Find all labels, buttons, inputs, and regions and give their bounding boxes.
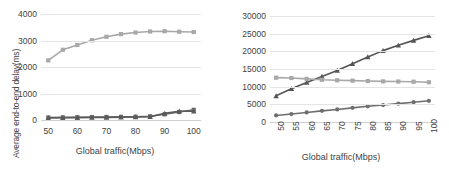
x-tick-label: 100 — [187, 126, 201, 136]
data-point-marker — [412, 80, 416, 84]
data-point-marker — [305, 77, 309, 81]
x-tick-label: 95 — [414, 121, 424, 130]
x-axis-title-left: Global traffic(Mbps) — [20, 146, 210, 156]
x-tick-label: 90 — [160, 126, 169, 136]
data-point-marker — [396, 79, 400, 83]
y-tick-label: 20000 — [242, 46, 266, 56]
two-panel-chart-figure: Average end-to-end delay(ms) 01000200030… — [0, 0, 449, 172]
y-tick-label: 1000 — [18, 89, 37, 99]
plot-area-left — [41, 14, 201, 120]
series-square — [46, 29, 196, 62]
gridline — [41, 14, 201, 15]
data-point-marker — [177, 30, 181, 34]
data-point-marker — [104, 35, 108, 39]
data-point-marker — [350, 106, 354, 110]
chart-panel-delay: Average end-to-end delay(ms) 01000200030… — [0, 0, 222, 172]
y-tick-label: 15000 — [242, 64, 266, 74]
x-tick-label: 50 — [276, 121, 286, 130]
data-point-marker — [61, 48, 65, 52]
data-point-marker — [289, 112, 293, 116]
y-tick-label: 0 — [32, 115, 37, 125]
data-point-marker — [335, 78, 339, 82]
x-tick-label: 80 — [131, 126, 140, 136]
x-tick-label: 75 — [353, 121, 363, 130]
y-tick-label: 2000 — [18, 62, 37, 72]
x-tick-label: 50 — [44, 126, 53, 136]
data-point-marker — [427, 99, 431, 103]
data-point-marker — [305, 110, 309, 114]
series-square — [274, 76, 431, 85]
y-tick-label: 4000 — [18, 9, 37, 19]
y-tick-label: 5000 — [247, 99, 266, 109]
data-point-marker — [163, 29, 167, 33]
x-tick-label: 80 — [368, 121, 378, 130]
gridline — [270, 69, 435, 70]
y-axis-tick-labels-left: 01000200030004000 — [0, 14, 37, 120]
x-tick-label: 70 — [337, 121, 347, 130]
gridline — [41, 67, 201, 68]
y-tick-label: 10000 — [242, 82, 266, 92]
data-point-marker — [381, 79, 385, 83]
data-point-marker — [274, 113, 278, 117]
x-axis-line — [41, 120, 201, 121]
y-tick-label: 0 — [261, 117, 266, 127]
y-tick-label: 3000 — [18, 36, 37, 46]
series-circle — [274, 99, 431, 118]
series-triangle — [46, 109, 197, 121]
x-tick-label: 85 — [383, 121, 393, 130]
gridline — [270, 51, 435, 52]
x-axis-title-right: Global traffic(Mbps) — [246, 152, 436, 162]
data-point-marker — [192, 30, 196, 34]
y-axis-tick-labels-right: 050001000015000200002500030000 — [222, 16, 266, 122]
data-point-marker — [119, 32, 123, 36]
gridline — [41, 41, 201, 42]
data-point-marker — [75, 43, 79, 47]
gridline — [270, 104, 435, 105]
chart-panel-throughput: Average throughput(Mbps) 050001000015000… — [222, 0, 449, 172]
data-point-marker — [274, 76, 278, 80]
data-point-marker — [148, 29, 152, 33]
x-tick-label: 100 — [429, 119, 439, 133]
x-tick-label: 60 — [73, 126, 82, 136]
y-tick-label: 25000 — [242, 29, 266, 39]
gridline — [41, 94, 201, 95]
data-point-marker — [335, 107, 339, 111]
x-tick-label: 90 — [398, 121, 408, 130]
data-point-marker — [366, 79, 370, 83]
x-tick-label: 60 — [307, 121, 317, 130]
x-tick-label: 70 — [102, 126, 111, 136]
data-point-marker — [350, 79, 354, 83]
data-point-marker — [289, 76, 293, 80]
y-tick-label: 30000 — [242, 11, 266, 21]
data-point-marker — [133, 30, 137, 34]
data-point-marker — [320, 109, 324, 113]
data-point-marker — [46, 58, 50, 62]
gridline — [270, 34, 435, 35]
series-triangle — [273, 33, 431, 98]
data-point-marker — [427, 80, 431, 84]
gridline — [270, 87, 435, 88]
data-point-marker — [320, 78, 324, 82]
x-tick-label: 55 — [291, 121, 301, 130]
gridline — [270, 16, 435, 17]
x-tick-label: 65 — [322, 121, 332, 130]
plot-area-right — [270, 16, 435, 122]
